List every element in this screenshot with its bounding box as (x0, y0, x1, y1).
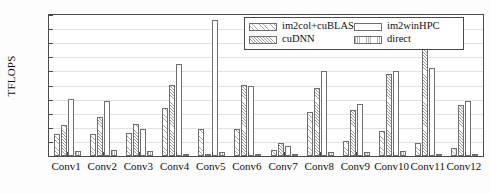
bar (255, 154, 261, 156)
x-tick-label: Conv4 (160, 160, 189, 172)
legend-item-direct: direct (354, 34, 459, 45)
bar (364, 152, 370, 156)
x-tick-label: Conv2 (88, 160, 117, 172)
bar (97, 117, 103, 156)
bar (219, 152, 225, 156)
bar-chart-figure: TFLOPS 02468101214161820 Conv1Conv2Conv3… (0, 0, 491, 194)
x-tick-mark (248, 152, 249, 156)
x-tick-label: Conv3 (124, 160, 153, 172)
bar (357, 104, 363, 156)
bar (400, 151, 406, 156)
bar (458, 105, 464, 156)
x-tick-label: Conv12 (446, 160, 481, 172)
y-tick-mark (49, 156, 53, 157)
bar (68, 99, 74, 156)
legend-item-im2winhpc: im2winHPC (354, 21, 459, 32)
chart-legend: im2col+cuBLAS im2winHPC cuDNN direct (244, 17, 464, 50)
bar (169, 85, 175, 156)
legend-swatch-im2col-cublas-icon (249, 23, 277, 31)
bar-group (85, 15, 121, 156)
bar (422, 45, 428, 156)
bar (436, 154, 442, 156)
legend-swatch-im2winhpc-icon (354, 23, 382, 31)
bar (126, 133, 132, 156)
bar (61, 125, 67, 156)
bar (285, 146, 291, 156)
bar (241, 85, 247, 156)
bar (75, 151, 81, 156)
bar-group (121, 15, 157, 156)
x-tick-mark (465, 152, 466, 156)
legend-row: cuDNN direct (249, 33, 459, 46)
bar (465, 101, 471, 156)
x-tick-mark (356, 152, 357, 156)
bar (183, 154, 189, 156)
x-tick-mark (212, 152, 213, 156)
x-tick-mark (139, 152, 140, 156)
bar (234, 129, 240, 156)
bar (162, 108, 168, 156)
x-tick-mark (103, 152, 104, 156)
x-tick-mark (176, 152, 177, 156)
legend-swatch-cudnn-icon (249, 36, 277, 44)
bar (415, 143, 421, 156)
legend-label-im2col-cublas: im2col+cuBLAS (282, 21, 354, 32)
x-tick-label: Conv11 (411, 160, 445, 172)
bar (314, 88, 320, 156)
bar-group (194, 15, 230, 156)
legend-row: im2col+cuBLAS im2winHPC (249, 20, 459, 33)
bar (104, 101, 110, 156)
legend-label-cudnn: cuDNN (282, 34, 315, 45)
bar (278, 143, 284, 156)
bar (429, 68, 435, 156)
bar (133, 124, 139, 156)
bar (321, 71, 327, 156)
x-tick-mark (393, 152, 394, 156)
x-tick-label: Conv10 (374, 160, 409, 172)
y-axis-title-text: TFLOPS (5, 56, 17, 97)
bar (393, 71, 399, 156)
bar (212, 20, 218, 156)
bar (111, 150, 117, 156)
bar (176, 64, 182, 156)
bar (307, 112, 313, 156)
bar-group (49, 15, 85, 156)
bar (248, 86, 254, 157)
bar (386, 74, 392, 156)
bar (292, 154, 298, 156)
bar-group (158, 15, 194, 156)
x-tick-mark (429, 152, 430, 156)
x-tick-label: Conv7 (268, 160, 297, 172)
legend-item-im2col-cublas: im2col+cuBLAS (249, 21, 354, 32)
bar (271, 150, 277, 156)
bar (205, 154, 211, 156)
x-tick-mark (320, 152, 321, 156)
bar (328, 152, 334, 156)
legend-label-im2winhpc: im2winHPC (387, 21, 440, 32)
bar (147, 151, 153, 156)
legend-item-cudnn: cuDNN (249, 34, 354, 45)
bar (198, 129, 204, 156)
bar (472, 154, 478, 156)
x-tick-label: Conv5 (196, 160, 225, 172)
bar (90, 134, 96, 156)
x-tick-label: Conv1 (51, 160, 80, 172)
x-tick-mark (67, 152, 68, 156)
x-tick-label: Conv8 (305, 160, 334, 172)
y-axis-title: TFLOPS (2, 0, 20, 152)
x-tick-mark (284, 152, 285, 156)
bar (343, 141, 349, 157)
x-tick-label: Conv9 (341, 160, 370, 172)
bar (451, 148, 457, 156)
bar (54, 134, 60, 156)
legend-swatch-direct-icon (354, 36, 382, 44)
bar (379, 131, 385, 156)
x-tick-label: Conv6 (232, 160, 261, 172)
bar (350, 110, 356, 156)
bar (140, 129, 146, 156)
legend-label-direct: direct (387, 34, 411, 45)
